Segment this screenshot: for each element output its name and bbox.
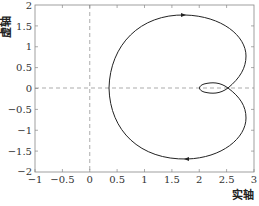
x-ticks [35, 5, 254, 172]
svg-text:2: 2 [26, 0, 32, 11]
y-ticks [35, 26, 254, 151]
svg-text:−0.5: −0.5 [50, 174, 74, 185]
svg-text:0: 0 [26, 83, 32, 94]
svg-text:−2: −2 [17, 166, 32, 177]
plot-frame [35, 5, 254, 172]
svg-text:−1: −1 [17, 125, 32, 136]
nyquist-curve [109, 15, 246, 159]
svg-text:2.5: 2.5 [219, 174, 235, 185]
svg-text:1.5: 1.5 [16, 21, 32, 32]
svg-text:0.5: 0.5 [109, 174, 125, 185]
x-tick-labels: −1 −0.5 0 0.5 1 1.5 2 2.5 3 [28, 174, 258, 185]
nyquist-chart: −1 −0.5 0 0.5 1 1.5 2 2.5 3 2 1.5 1 0.5 … [0, 0, 259, 206]
svg-text:1.5: 1.5 [164, 174, 180, 185]
x-axis-label: 实轴 [232, 188, 254, 202]
arrow-marker-top [181, 13, 186, 17]
svg-text:1: 1 [26, 41, 32, 52]
svg-text:0: 0 [87, 174, 93, 185]
svg-text:−1.5: −1.5 [8, 146, 32, 157]
svg-text:−0.5: −0.5 [8, 104, 32, 115]
svg-text:1: 1 [141, 174, 147, 185]
svg-text:3: 3 [251, 174, 257, 185]
arrow-marker-bottom [184, 157, 189, 161]
svg-text:2: 2 [196, 174, 202, 185]
y-axis-label: 虚轴 [0, 16, 13, 38]
svg-text:0.5: 0.5 [16, 62, 32, 73]
